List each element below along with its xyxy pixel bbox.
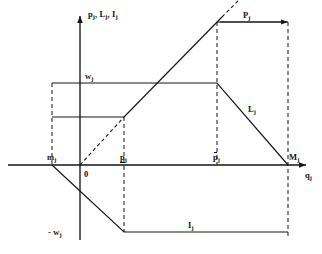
axes-group bbox=[8, 16, 306, 240]
figure-container: pj, Lj, Ij 0 mj wj - wj pj pj Mj Pj Lj I… bbox=[0, 0, 322, 254]
I-j-label: Ij bbox=[188, 221, 194, 231]
L-j-label: Lj bbox=[248, 105, 256, 115]
P-j-dashed-lower-segment bbox=[80, 117, 124, 165]
M-j-label: Mj bbox=[289, 153, 299, 163]
neg-w-j-label: - wj bbox=[48, 228, 62, 238]
y-axis-arrowhead bbox=[77, 16, 83, 23]
curve-L-j bbox=[52, 83, 288, 165]
L-j-path bbox=[52, 83, 288, 165]
P-j-annotation-arrowhead bbox=[281, 19, 288, 24]
diagram-canvas bbox=[0, 0, 322, 254]
x-axis-arrowhead bbox=[299, 162, 306, 168]
m-j-label: mj bbox=[47, 153, 56, 163]
p-lower-j-label: pj bbox=[120, 153, 127, 163]
p-upper-j-label: pj bbox=[213, 153, 220, 163]
y-axis-title: pj, Lj, Ij bbox=[88, 10, 118, 20]
P-j-rising-segment bbox=[124, 17, 222, 117]
q-j-label: qj bbox=[305, 171, 312, 181]
P-j-dashed-extension bbox=[222, 0, 243, 17]
P-j-label: Pj bbox=[243, 11, 251, 21]
origin-label: 0 bbox=[84, 170, 88, 179]
w-j-label: wj bbox=[85, 72, 93, 82]
guide-lines-group bbox=[52, 22, 288, 238]
